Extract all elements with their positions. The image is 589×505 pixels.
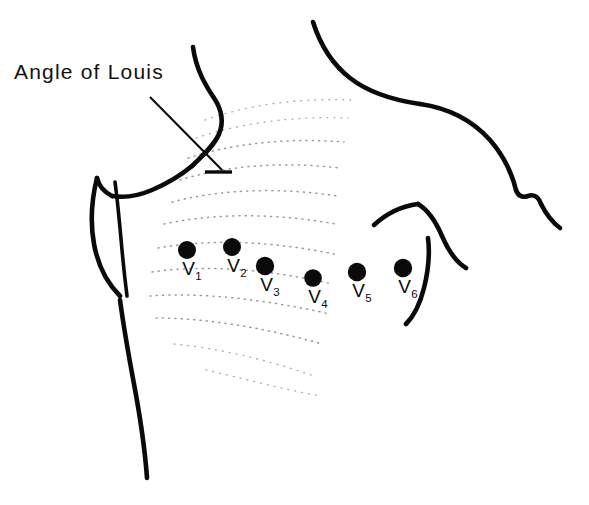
- electrode-dot-v2: [223, 238, 241, 256]
- breast-right-lateral-outline: [418, 204, 466, 268]
- leader-line-segment: [150, 97, 222, 170]
- costal-margin-line: [174, 344, 314, 376]
- shoulder-right-outline: [313, 22, 420, 104]
- electrode-label-base: V: [308, 286, 321, 307]
- rib-line: [180, 165, 340, 180]
- electrode-label-subscript: 1: [195, 270, 201, 282]
- electrode-label-base: V: [398, 276, 411, 297]
- rib-line: [205, 100, 352, 120]
- electrode-label-subscript: 3: [273, 286, 279, 298]
- electrode-label-subscript: 5: [365, 292, 371, 304]
- electrode-dot-v4: [304, 269, 322, 287]
- rib-line: [172, 191, 338, 202]
- electrode-dot-v3: [256, 257, 274, 275]
- angle-of-louis-label: Angle of Louis: [14, 60, 164, 84]
- electrode-label-subscript: 4: [321, 298, 327, 310]
- electrode-label-base: V: [182, 258, 195, 279]
- electrode-label-base: V: [260, 274, 273, 295]
- electrode-label-v1: V1: [182, 258, 201, 282]
- arm-right-lower-outline: [541, 204, 560, 228]
- rib-line: [156, 318, 322, 344]
- electrode-dot-v1: [178, 241, 196, 259]
- electrode-label-v2: V2: [227, 255, 246, 279]
- torso-left-lower-outline: [120, 300, 147, 478]
- torso-left-upper-outline: [97, 178, 112, 196]
- precordial-lead-diagram: Angle of Louis V1V2V3V4V5V6: [0, 0, 589, 505]
- axilla-inner-outline: [115, 182, 127, 296]
- electrode-label-subscript: 2: [240, 267, 246, 279]
- costal-margin-line: [206, 370, 322, 396]
- torso-outline: [92, 22, 560, 478]
- arm-right-notch-outline: [516, 190, 541, 204]
- electrode-label-base: V: [352, 280, 365, 301]
- electrode-label-base: V: [227, 255, 240, 276]
- electrode-label-v5: V5: [352, 280, 371, 304]
- electrode-label-v3: V3: [260, 274, 279, 298]
- electrode-dot-v6: [394, 259, 412, 277]
- neck-left-outline: [192, 47, 222, 166]
- electrode-dots: [178, 238, 412, 287]
- electrode-label-subscript: 6: [411, 288, 417, 300]
- rib-line: [164, 216, 336, 224]
- breast-right-upper-outline: [374, 204, 418, 225]
- shoulder-left-outline: [112, 166, 192, 197]
- electrode-label-v4: V4: [308, 286, 327, 310]
- rib-line: [150, 295, 330, 314]
- electrode-label-v6: V6: [398, 276, 417, 300]
- arm-right-upper-outline: [420, 104, 516, 190]
- electrode-dot-v5: [348, 263, 366, 281]
